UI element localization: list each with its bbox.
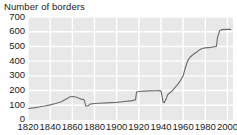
x-tick-1820: 1820 <box>17 121 38 132</box>
x-tick-1880: 1880 <box>84 121 105 132</box>
plot-area-wrapper <box>28 17 233 120</box>
x-tick-2000: 2000 <box>217 121 237 132</box>
y-tick-100: 100 <box>9 100 25 110</box>
y-tick-300: 300 <box>9 70 25 80</box>
y-tick-200: 200 <box>9 85 25 95</box>
y-tick-400: 400 <box>9 56 25 66</box>
y-tick-700: 700 <box>9 12 25 22</box>
chart-plot-svg <box>28 17 233 120</box>
x-tick-1900: 1900 <box>106 121 127 132</box>
x-tick-1980: 1980 <box>195 121 216 132</box>
x-tick-1940: 1940 <box>150 121 171 132</box>
y-tick-500: 500 <box>9 41 25 51</box>
x-tick-1960: 1960 <box>173 121 194 132</box>
gridlines <box>28 17 233 120</box>
x-tick-1840: 1840 <box>40 121 61 132</box>
x-axis-tick-labels: 1820184018601880190019201940196019802000 <box>0 121 237 135</box>
y-tick-600: 600 <box>9 26 25 36</box>
x-tick-1920: 1920 <box>128 121 149 132</box>
x-tick-1860: 1860 <box>62 121 83 132</box>
data-line-number-of-borders <box>28 29 231 108</box>
y-axis-tick-labels: 700 600 500 400 300 200 100 0 <box>0 0 25 135</box>
data-series-group <box>28 29 231 108</box>
chart-figure: Number of borders 700 600 500 400 300 20… <box>0 0 237 135</box>
